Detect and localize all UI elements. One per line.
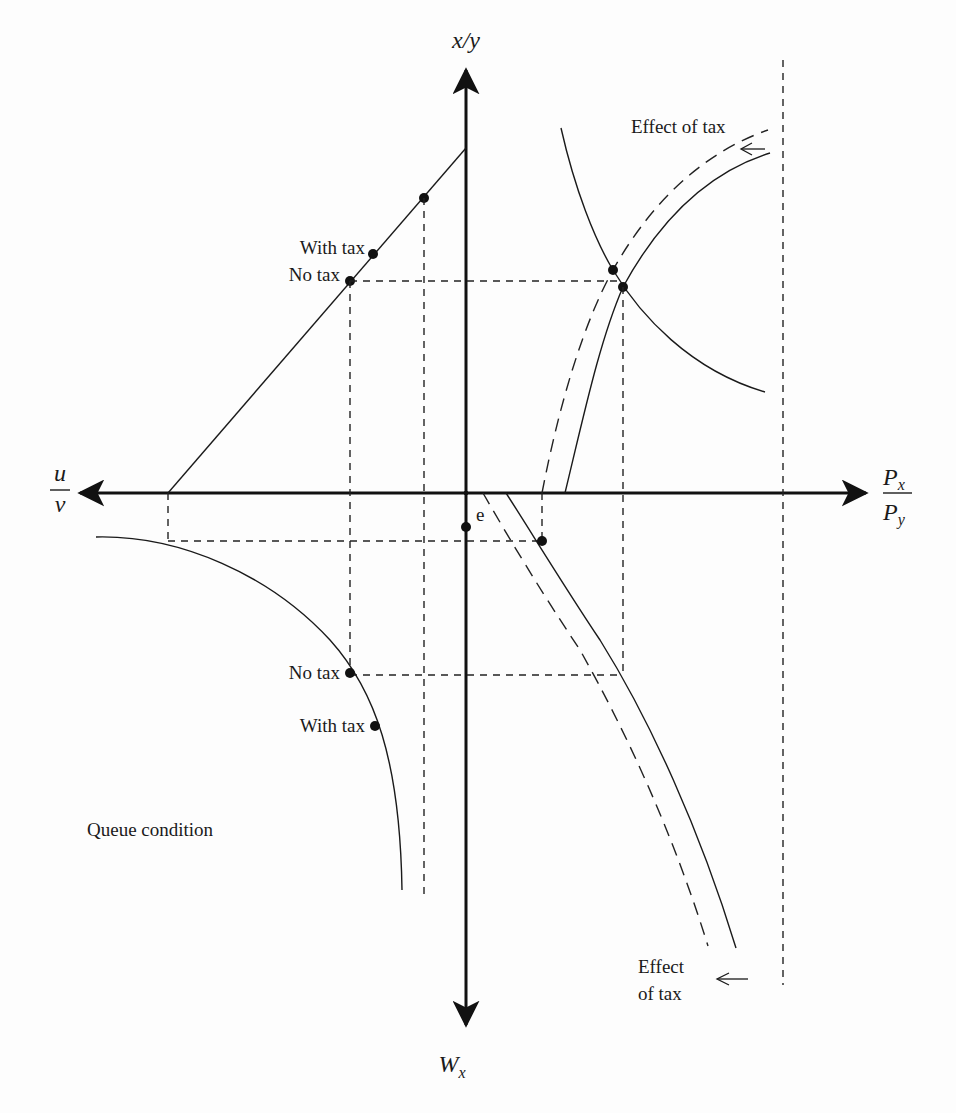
axes [80, 70, 866, 1025]
label-upper-no-tax: No tax [289, 264, 341, 285]
axis-label-right: Px Py [882, 464, 912, 529]
svg-text:u: u [54, 460, 66, 486]
point-lower-no-tax [345, 668, 355, 678]
guide-lines [168, 198, 623, 895]
label-effect-of-tax-top: Effect of tax [631, 116, 726, 137]
point-upper-with-tax [368, 249, 378, 259]
arrow-effect-bottom-icon [717, 973, 748, 985]
label-lower-with-tax: With tax [300, 715, 366, 736]
svg-text:Wx: Wx [438, 1051, 465, 1081]
axis-label-left: u v [50, 460, 70, 517]
point-lower-right [537, 536, 547, 546]
point-equilibrium [461, 522, 471, 532]
label-queue-condition: Queue condition [87, 819, 214, 840]
four-quadrant-diagram: x/y Wx u v Px Py With tax No tax Effect … [0, 0, 956, 1113]
wage-curve-with-tax [483, 493, 708, 946]
supply-curve-no-tax [565, 153, 770, 493]
svg-text:Px: Px [882, 464, 905, 493]
label-lower-no-tax: No tax [289, 662, 341, 683]
label-upper-with-tax: With tax [300, 237, 366, 258]
wage-curve-no-tax [506, 493, 736, 948]
label-effect-of-tax-bottom-line2: of tax [638, 983, 682, 1004]
label-effect-of-tax-bottom-line1: Effect [638, 956, 685, 977]
label-equilibrium: e [476, 504, 484, 525]
svg-text:Py: Py [882, 499, 906, 529]
axis-label-bottom: Wx [438, 1051, 465, 1081]
svg-text:v: v [55, 491, 66, 517]
axis-label-top: x/y [451, 27, 480, 53]
point-upper-right-with-tax [608, 265, 618, 275]
arrow-effect-top-icon [741, 143, 765, 155]
point-lower-with-tax [370, 721, 380, 731]
